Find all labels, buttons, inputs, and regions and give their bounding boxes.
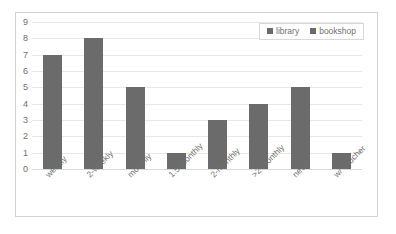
y-tick-label: 2 xyxy=(23,132,28,141)
gridline xyxy=(32,169,362,170)
y-tick-label: 1 xyxy=(23,148,28,157)
legend-label: bookshop xyxy=(319,27,356,36)
bar-weekly xyxy=(43,55,62,169)
legend-entry-bookshop[interactable]: bookshop xyxy=(310,27,356,36)
y-tick-label: 6 xyxy=(23,67,28,76)
y-tick-label: 0 xyxy=(23,165,28,174)
y-tick-label: 4 xyxy=(23,99,28,108)
square-marker-icon xyxy=(267,28,273,34)
chart-legend: librarybookshop xyxy=(259,23,364,40)
y-tick-label: 3 xyxy=(23,116,28,125)
bar-2-weekly xyxy=(84,38,103,169)
y-tick-label: 5 xyxy=(23,83,28,92)
chart-frame: 0123456789 weekly2-weeklymonthly1.5-mont… xyxy=(15,12,378,217)
legend-entry-library[interactable]: library xyxy=(267,27,299,36)
x-axis-category-labels: weekly2-weeklymonthly1.5-monthly2-monthl… xyxy=(32,171,362,227)
y-tick-label: 8 xyxy=(23,34,28,43)
bar-never xyxy=(291,87,310,169)
square-marker-icon xyxy=(310,28,316,34)
y-tick-label: 7 xyxy=(23,50,28,59)
legend-label: library xyxy=(276,27,299,36)
y-tick-label: 9 xyxy=(23,18,28,27)
